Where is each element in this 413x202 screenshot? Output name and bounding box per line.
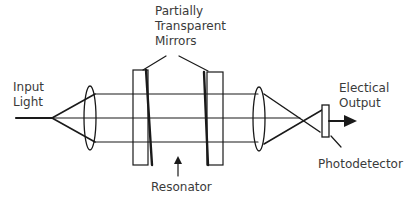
mirror-leader-left [143, 56, 166, 70]
output-label-line1: Electical [339, 81, 389, 96]
input-label-line1: Input [13, 80, 44, 95]
output-arrowhead-icon [344, 115, 357, 127]
photodetector [322, 105, 329, 137]
input-cone-bottom [52, 118, 95, 142]
input-cone-top [52, 94, 95, 118]
resonator-arrowhead-icon [174, 156, 182, 164]
photodetector-label: Photodetector [318, 157, 403, 172]
mirrors-label-line2: Transparent [155, 19, 226, 34]
output-cone-top [264, 94, 320, 132]
mirror-leader-right [179, 56, 208, 71]
mirrors-label-line1: Partially [155, 4, 203, 19]
output-lens [253, 87, 265, 151]
input-label-line2: Light [13, 95, 43, 110]
output-label-line2: Output [339, 96, 381, 111]
mirrors-label-line3: Mirrors [155, 34, 197, 49]
resonator-label: Resonator [151, 180, 212, 195]
photodetector-leader [331, 136, 341, 147]
